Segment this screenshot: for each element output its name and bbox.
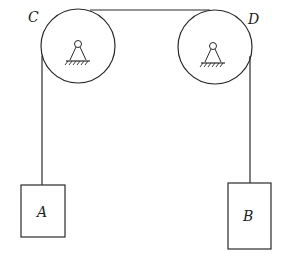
pulley-diagram: C D A B	[0, 0, 282, 277]
block-a-label: A	[35, 204, 47, 220]
pulley-c-label: C	[28, 9, 39, 25]
pulley-d: D	[178, 10, 259, 84]
block-a: A	[21, 185, 65, 237]
block-b: B	[228, 183, 271, 249]
pivot-support-icon	[65, 41, 90, 66]
pulley-c: C	[28, 9, 115, 83]
pivot-support-icon	[200, 43, 225, 68]
block-b-label: B	[242, 208, 253, 224]
pulley-d-label: D	[247, 11, 259, 27]
